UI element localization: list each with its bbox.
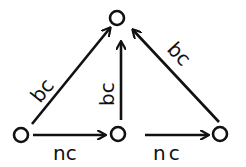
node-left (14, 128, 28, 142)
edge-label-left-middle: nc (53, 141, 77, 165)
edge-left-top (32, 28, 110, 124)
node-right (213, 127, 227, 141)
diagram-canvas: bc bc bc nc nc (0, 0, 246, 167)
node-top (110, 11, 124, 25)
edge-label-left-top: bc (25, 74, 59, 108)
edge-label-middle-top: bc (95, 82, 119, 106)
node-middle (111, 127, 125, 141)
edge-label-middle-right: nc (153, 141, 183, 165)
